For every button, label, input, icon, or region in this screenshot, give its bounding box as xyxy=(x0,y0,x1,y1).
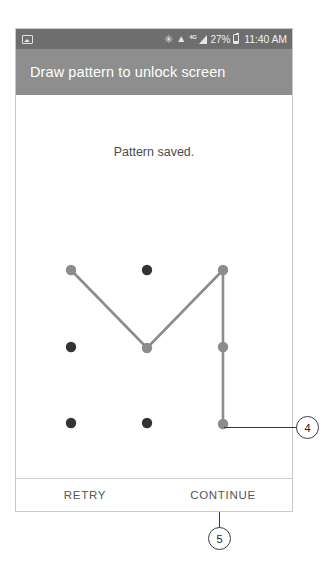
pattern-dot-r0c2 xyxy=(218,265,228,275)
battery-icon xyxy=(233,34,239,44)
pattern-dot-r1c1 xyxy=(142,343,152,353)
pattern-grid[interactable] xyxy=(16,95,292,478)
title-bar: Draw pattern to unlock screen xyxy=(16,49,292,95)
callout-5-leader-line xyxy=(219,512,220,528)
pattern-dot-r0c1 xyxy=(142,265,152,275)
continue-button[interactable]: CONTINUE xyxy=(154,479,292,511)
status-bar-left xyxy=(22,35,33,44)
phone-screen: ✳ ▲ 4G 27% 11:40 AM Draw pattern to unlo… xyxy=(15,28,293,512)
pattern-dot-r0c0 xyxy=(66,265,76,275)
callout-4-leader-line xyxy=(224,427,298,428)
page-title: Draw pattern to unlock screen xyxy=(30,64,226,80)
pattern-dot-r2c0 xyxy=(66,418,76,428)
status-bar-right: ✳ ▲ 4G 27% 11:40 AM xyxy=(164,33,287,45)
pattern-dot-r1c2 xyxy=(218,342,228,352)
signal-strength-icon xyxy=(199,35,207,44)
photo-icon xyxy=(22,35,33,44)
pattern-dot-r2c1 xyxy=(142,418,152,428)
callout-4: 4 xyxy=(296,416,319,439)
callout-5: 5 xyxy=(208,527,231,550)
clock-label: 11:40 AM xyxy=(244,33,287,45)
bluetooth-icon: ✳ xyxy=(164,34,173,45)
status-bar: ✳ ▲ 4G 27% 11:40 AM xyxy=(16,29,292,49)
wifi-icon: ▲ xyxy=(176,34,186,44)
battery-percent-label: 27% xyxy=(210,34,230,45)
pattern-dot-r1c0 xyxy=(66,342,76,352)
retry-button[interactable]: RETRY xyxy=(16,479,154,511)
lte-icon: 4G xyxy=(189,34,196,40)
pattern-canvas[interactable] xyxy=(16,95,293,480)
content-area: Pattern saved. xyxy=(16,95,292,478)
action-bar: RETRY CONTINUE xyxy=(16,478,292,511)
